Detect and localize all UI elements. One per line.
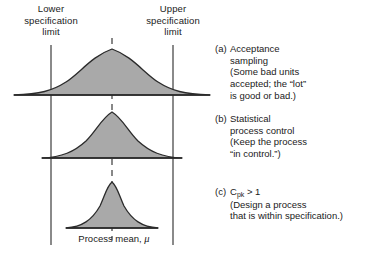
note-a-tag: (a) (215, 43, 230, 55)
note-cpk-capability: (c)Cpk > 1 (Design a process that is wit… (215, 186, 373, 222)
x-axis-caption: Process mean, μ (36, 233, 192, 244)
note-b-head: (b)Statistical (215, 113, 373, 125)
mu-symbol: μ (144, 233, 149, 244)
note-b-title: Statistical (230, 113, 271, 124)
note-a-head: (a)Acceptance (215, 43, 373, 55)
note-acceptance-sampling: (a)Acceptance sampling (Some bad units a… (215, 43, 373, 102)
distribution-curve-a (14, 49, 210, 95)
note-b-body: process control (Keep the process “in co… (215, 125, 373, 160)
note-a-title: Acceptance (230, 43, 280, 54)
process-capability-figure: Lower specification limit Upper specific… (0, 0, 373, 261)
note-c-cpk-symbol: C (230, 186, 237, 197)
note-c-head: (c)Cpk > 1 (215, 186, 373, 199)
distribution-curve-b (42, 112, 182, 158)
note-b-tag: (b) (215, 113, 230, 125)
distribution-curve-c-area (66, 182, 158, 228)
note-c-body: (Design a process that is within specifi… (215, 199, 373, 222)
distribution-curve-b-area (42, 112, 182, 158)
distribution-plot (0, 0, 230, 261)
distribution-curve-c (66, 182, 158, 228)
x-axis-caption-text: Process mean, (78, 233, 144, 244)
distribution-svg (0, 0, 230, 261)
note-a-body: sampling (Some bad units accepted; the “… (215, 55, 373, 102)
note-c-tag: (c) (215, 186, 230, 198)
note-statistical-process-control: (b)Statistical process control (Keep the… (215, 113, 373, 160)
note-c-cpk-subscript: pk (237, 191, 244, 198)
note-c-cpk-condition: > 1 (244, 186, 260, 197)
distribution-curve-a-area (14, 49, 210, 95)
